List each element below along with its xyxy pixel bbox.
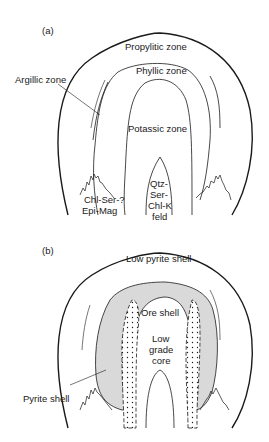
pyrite-shell-label: Pyrite shell [23, 393, 69, 404]
alteration-zone-diagram: (a) Propylitic zone Phyllic zone Argilli… [0, 0, 269, 442]
potassic-zone-label: Potassic zone [128, 123, 187, 134]
ore-shell-label: Ore shell [141, 307, 179, 318]
low-pyrite-shell-label: Low pyrite shell [126, 253, 191, 264]
phyllic-zone-label: Phyllic zone [136, 65, 187, 76]
core-label-line4: feld [152, 211, 167, 222]
low-grade-core-line2: grade [149, 344, 173, 355]
propylitic-zone-label: Propylitic zone [125, 41, 187, 52]
panel-a-label: (a) [42, 25, 54, 36]
chl-ser-label-line2: Epi-Mag [82, 205, 117, 216]
argillic-leader [58, 84, 100, 115]
outer-shell-line-left [82, 305, 90, 350]
low-grade-core-line1: Low [152, 333, 170, 344]
argillic-zone-label: Argillic zone [15, 74, 66, 85]
low-grade-core-line3: core [152, 355, 170, 366]
core-label-line3: Chl-K [148, 200, 172, 211]
panel-b-label: (b) [42, 245, 54, 256]
core-label-line2: Ser- [150, 189, 168, 200]
argillic-line-right [210, 76, 220, 128]
core-label-line1: Qtz- [150, 178, 168, 189]
panel-a: (a) Propylitic zone Phyllic zone Argilli… [15, 25, 252, 222]
chl-ser-label-line1: Chl-Ser-? [84, 194, 125, 205]
panel-b: (b) Low pyrite shell Ore shell Low [23, 245, 252, 428]
